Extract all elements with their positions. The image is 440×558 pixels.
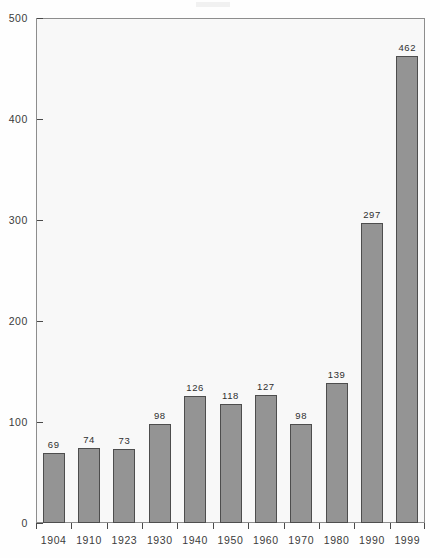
x-tick-mark [424, 523, 425, 529]
x-tick-label: 1970 [288, 534, 314, 546]
bar-value-label: 73 [119, 435, 131, 446]
y-tick-mark [37, 220, 43, 221]
bar [43, 453, 65, 523]
x-tick-label: 1990 [359, 534, 385, 546]
x-tick-label: 1940 [182, 534, 208, 546]
scan-artifact [196, 2, 230, 7]
bar [78, 448, 100, 523]
x-tick-label: 1980 [324, 534, 350, 546]
bar-value-label: 74 [83, 434, 95, 445]
x-tick-mark [142, 523, 143, 529]
x-tick-label: 1999 [394, 534, 420, 546]
x-tick-mark [319, 523, 320, 529]
y-tick-label: 300 [9, 214, 28, 226]
y-tick-label: 200 [9, 315, 28, 327]
y-tick-mark [37, 422, 43, 423]
bar [184, 396, 206, 523]
bar-value-label: 98 [154, 410, 166, 421]
y-tick-label: 400 [9, 113, 28, 125]
bar [396, 56, 418, 523]
bar [220, 404, 242, 523]
x-tick-label: 1930 [147, 534, 173, 546]
y-tick-mark [37, 321, 43, 322]
bar-value-label: 98 [295, 410, 307, 421]
x-tick-label: 1910 [76, 534, 102, 546]
bar [255, 395, 277, 523]
x-tick-mark [354, 523, 355, 529]
x-tick-label: 1950 [218, 534, 244, 546]
x-tick-mark [284, 523, 285, 529]
bar [326, 383, 348, 523]
bar [113, 449, 135, 523]
x-tick-mark [107, 523, 108, 529]
x-tick-label: 1904 [41, 534, 67, 546]
bar-value-label: 127 [257, 381, 275, 392]
x-tick-mark [390, 523, 391, 529]
x-tick-mark [248, 523, 249, 529]
y-tick-mark [37, 119, 43, 120]
x-tick-label: 1960 [253, 534, 279, 546]
y-tick-label: 0 [22, 517, 28, 529]
bar-value-label: 118 [222, 390, 239, 401]
x-axis: 1904191019231930194019501960197019801990… [36, 523, 425, 558]
bar [149, 424, 171, 523]
x-tick-mark [177, 523, 178, 529]
x-tick-mark [213, 523, 214, 529]
bar-value-label: 69 [48, 439, 60, 450]
bar [361, 223, 383, 523]
y-tick-mark [37, 523, 43, 524]
y-tick-label: 100 [9, 416, 28, 428]
x-tick-mark [71, 523, 72, 529]
bars-layer: 6974739812611812798139297462 [36, 18, 425, 523]
bar-value-label: 297 [363, 209, 381, 220]
y-axis: 0100200300400500 [0, 0, 36, 558]
bar-value-label: 139 [328, 369, 346, 380]
bar-value-label: 462 [398, 42, 416, 53]
y-tick-mark [37, 18, 43, 19]
x-tick-label: 1923 [112, 534, 138, 546]
bar-value-label: 126 [186, 382, 204, 393]
bar [290, 424, 312, 523]
bar-chart: 0100200300400500 69747398126118127981392… [0, 0, 440, 558]
y-tick-label: 500 [9, 12, 28, 24]
